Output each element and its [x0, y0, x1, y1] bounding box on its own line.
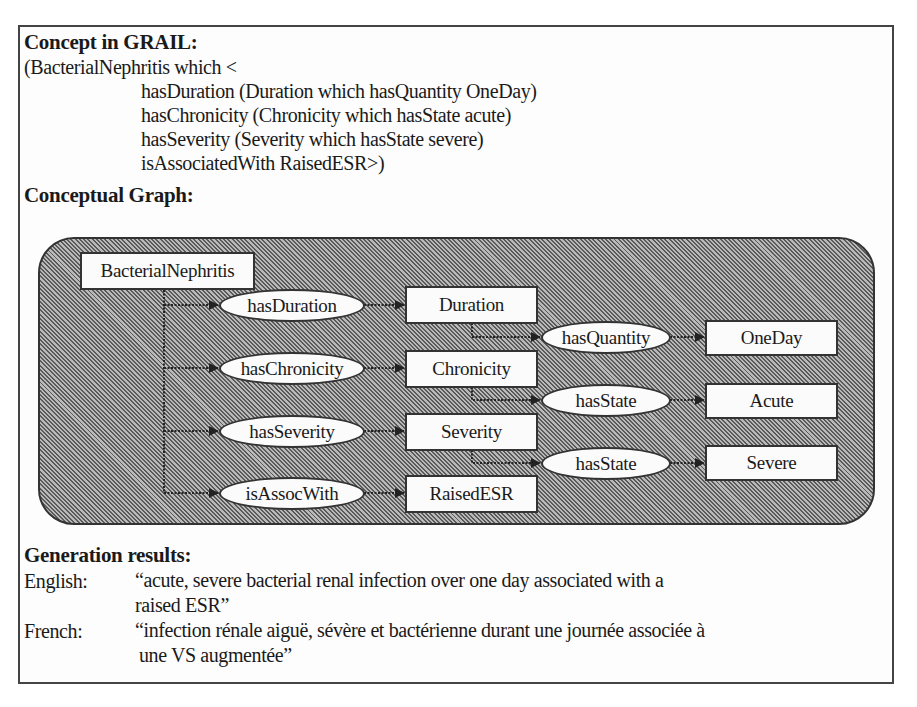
grail-line-1: (BacterialNephritis which < — [24, 56, 237, 79]
english-label: English: — [24, 570, 87, 593]
relation-has-state-acute: hasState — [541, 384, 671, 417]
relation-has-quantity: hasQuantity — [541, 321, 671, 354]
french-text-line2: une VS augmentée” — [139, 643, 779, 668]
node-acute: Acute — [705, 383, 838, 419]
node-chronicity: Chronicity — [405, 350, 538, 388]
grail-heading: Concept in GRAIL: — [24, 30, 197, 55]
relation-has-chronicity: hasChronicity — [219, 352, 365, 385]
english-text-line1: “acute, severe bacterial renal infection… — [135, 568, 775, 593]
graph-heading: Conceptual Graph: — [24, 183, 193, 208]
relation-has-duration: hasDuration — [219, 289, 365, 322]
node-raised-esr: RaisedESR — [405, 475, 538, 513]
node-one-day: OneDay — [705, 320, 838, 356]
grail-line-4: hasSeverity (Severity which hasState sev… — [141, 128, 483, 151]
relation-has-severity: hasSeverity — [219, 415, 365, 448]
node-severity: Severity — [405, 413, 538, 451]
generation-heading: Generation results: — [24, 543, 191, 568]
french-text-line1: “infection rénale aiguë, sévère et bacté… — [135, 618, 895, 643]
grail-line-3: hasChronicity (Chronicity which hasState… — [141, 104, 511, 127]
node-duration: Duration — [405, 286, 538, 324]
relation-is-assoc-with: isAssocWith — [219, 477, 365, 510]
french-label: French: — [24, 620, 82, 643]
grail-line-2: hasDuration (Duration which hasQuantity … — [141, 80, 537, 103]
english-text-line2: raised ESR” — [135, 593, 775, 618]
node-severe: Severe — [705, 445, 838, 481]
node-root: BacterialNephritis — [80, 252, 255, 290]
relation-has-state-severe: hasState — [541, 447, 671, 480]
grail-line-5: isAssociatedWith RaisedESR>) — [141, 152, 384, 175]
